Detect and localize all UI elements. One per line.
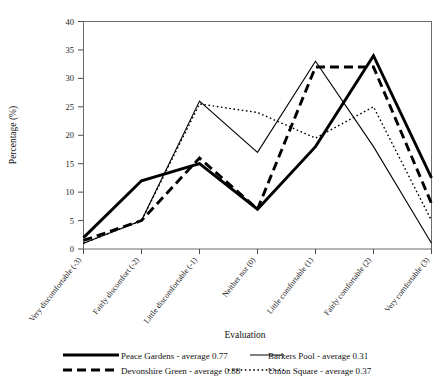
plot-frame [84, 22, 432, 250]
legend-label: Devonshire Green - average 0.88 [121, 366, 241, 376]
x-tick-label: Fairly discomfort (-2) [91, 255, 141, 316]
y-axis-tick-labels: 0510152025303540 [66, 17, 75, 255]
legend-label: Barkers Pool - average 0.31 [268, 351, 368, 361]
chart-figure: 0510152025303540 Percentage (%) Very dis… [0, 0, 443, 381]
x-tick-label: Very comfortable (3) [383, 255, 432, 314]
y-axis-tick-marks [78, 22, 84, 250]
x-tick-label: Fairly comfortable (2) [322, 255, 373, 317]
y-tick-label: 0 [70, 244, 74, 254]
series-line [84, 61, 432, 243]
chart-legend: Peace Gardens - average 0.77Barkers Pool… [63, 351, 372, 376]
x-tick-label: Little discomfortable (-1) [142, 255, 199, 325]
y-tick-label: 40 [66, 17, 75, 27]
x-tick-label: Little comfortable (1) [265, 255, 315, 315]
legend-label: Peace Gardens - average 0.77 [121, 351, 228, 361]
line-chart: 0510152025303540 Percentage (%) Very dis… [0, 0, 443, 381]
x-tick-label: Neither nor (0) [220, 255, 257, 299]
x-axis-tick-marks [84, 249, 432, 254]
series-line [84, 67, 432, 240]
y-tick-label: 5 [70, 216, 74, 226]
y-tick-label: 30 [66, 73, 75, 83]
y-tick-label: 35 [66, 45, 75, 55]
y-tick-label: 25 [66, 102, 75, 112]
legend-label: Union Square - average 0.37 [268, 366, 372, 376]
y-tick-label: 20 [66, 130, 75, 140]
y-tick-label: 10 [66, 187, 75, 197]
y-tick-label: 15 [66, 159, 75, 169]
x-axis-tick-labels: Very discomfortable (-3)Fairly discomfor… [27, 255, 431, 325]
x-axis-title: Evaluation [224, 330, 265, 340]
y-axis-title: Percentage (%) [8, 106, 19, 164]
x-tick-label: Very discomfortable (-3) [27, 255, 83, 323]
data-series-group [84, 56, 432, 244]
